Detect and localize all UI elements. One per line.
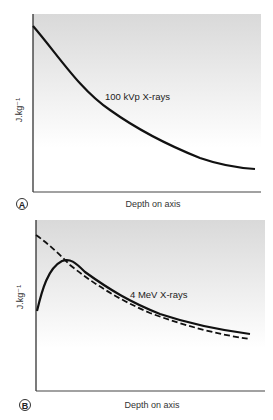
curve-label-b: 4 MeV X-rays [130, 289, 188, 300]
panel-badge-b: B [20, 400, 31, 411]
plot-area-b [36, 220, 265, 391]
panel-a: 100 kVp X-rays J.kg⁻¹ Depth on axis A [0, 0, 273, 210]
x-axis-label-b: Depth on axis [124, 400, 180, 410]
panel-b: 4 MeV X-rays J.kg⁻¹ Depth on axis B [0, 210, 273, 420]
y-axis-label-a: J.kg⁻¹ [14, 98, 24, 123]
chart-b: 4 MeV X-rays J.kg⁻¹ Depth on axis B [0, 210, 273, 420]
chart-a: 100 kVp X-rays J.kg⁻¹ Depth on axis A [0, 0, 273, 210]
panel-badge-a: A [17, 199, 28, 210]
y-axis-label-b: J.kg⁻¹ [15, 285, 25, 310]
x-axis-label-a: Depth on axis [125, 199, 181, 209]
curve-label-a: 100 kVp X-rays [105, 91, 170, 102]
svg-text:B: B [22, 401, 29, 411]
svg-text:A: A [19, 200, 26, 210]
